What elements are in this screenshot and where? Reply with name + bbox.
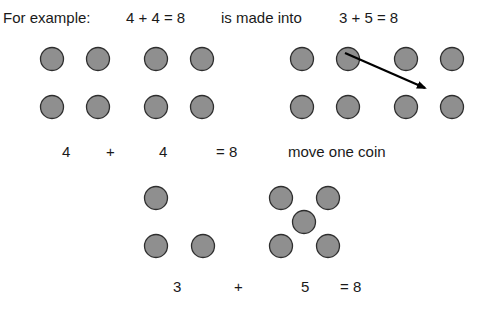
coin-diagram xyxy=(0,0,487,309)
coin-icon xyxy=(270,235,293,258)
coin-set-left-4 xyxy=(41,48,110,119)
coin-icon xyxy=(87,48,110,71)
coin-icon xyxy=(441,96,464,119)
coin-icon xyxy=(317,187,340,210)
equals-label: = 8 xyxy=(340,278,361,296)
coin-group-3-plus-5 xyxy=(145,187,340,258)
coin-icon xyxy=(337,96,360,119)
coin-icon xyxy=(145,187,168,210)
coin-icon xyxy=(291,96,314,119)
coin-icon xyxy=(395,96,418,119)
right-count-label: 4 xyxy=(159,143,167,161)
coin-icon xyxy=(41,48,64,71)
instruction-label: move one coin xyxy=(288,143,386,161)
plus-sign: + xyxy=(106,143,115,161)
coin-icon xyxy=(87,96,110,119)
coin-icon xyxy=(191,48,214,71)
coin-set-right-4 xyxy=(145,48,214,119)
coin-icon xyxy=(293,211,316,234)
coin-set-left-3 xyxy=(145,187,215,258)
plus-sign: + xyxy=(234,278,243,296)
coin-icon xyxy=(270,187,293,210)
coin-icon xyxy=(317,235,340,258)
coin-group-move xyxy=(291,48,464,119)
left-count-label: 4 xyxy=(62,143,70,161)
coin-icon xyxy=(191,96,214,119)
coin-icon xyxy=(192,235,215,258)
coin-icon xyxy=(395,48,418,71)
equals-label: = 8 xyxy=(216,143,237,161)
coin-group-4-plus-4 xyxy=(41,48,214,119)
right-count-label: 5 xyxy=(301,278,309,296)
coin-set-right-5 xyxy=(270,187,340,258)
coin-icon xyxy=(145,48,168,71)
coin-icon xyxy=(145,235,168,258)
coin-icon xyxy=(41,96,64,119)
coin-icon xyxy=(441,48,464,71)
coin-icon xyxy=(145,96,168,119)
coin-icon xyxy=(291,48,314,71)
left-count-label: 3 xyxy=(173,278,181,296)
